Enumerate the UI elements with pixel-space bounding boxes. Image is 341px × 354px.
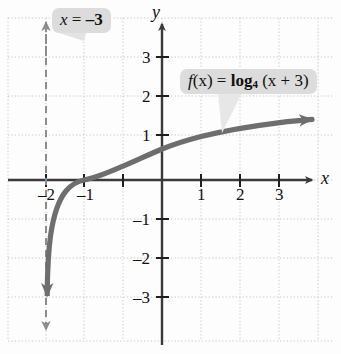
function-callout-expression: (x + 3) <box>258 71 309 90</box>
x-tick-label--2: –2 <box>38 186 55 203</box>
graph-canvas <box>0 0 341 354</box>
function-callout: f(x) = log4 (x + 3) <box>180 69 317 94</box>
y-axis-label: y <box>152 3 160 21</box>
logarithmic-graph-figure: –2 –1 1 2 3 3 2 1 –1 –2 –3 x y x = –3 f(… <box>0 0 341 354</box>
y-tick-label-3: 3 <box>142 49 151 66</box>
asymptote-callout-equals: = <box>68 10 86 29</box>
asymptote-callout-var: x <box>60 10 68 29</box>
y-tick-label--1: –1 <box>133 211 150 228</box>
y-tick-label-2: 2 <box>142 88 151 105</box>
function-callout-arg: (x) <box>193 71 213 90</box>
x-axis-label: x <box>321 169 329 187</box>
y-tick-label-1: 1 <box>142 127 151 144</box>
x-tick-label-1: 1 <box>197 186 206 203</box>
function-callout-log: log <box>231 71 253 90</box>
y-tick-label--3: –3 <box>133 289 150 306</box>
x-tick-label-2: 2 <box>236 186 245 203</box>
x-tick-label--1: –1 <box>77 186 94 203</box>
x-tick-label-3: 3 <box>275 186 284 203</box>
asymptote-callout-tail <box>56 32 86 41</box>
y-tick-label--2: –2 <box>133 250 150 267</box>
asymptote-callout-value: –3 <box>86 10 103 29</box>
function-callout-equals: = <box>213 71 231 90</box>
function-curve <box>47 119 312 290</box>
asymptote-callout: x = –3 <box>52 8 111 33</box>
